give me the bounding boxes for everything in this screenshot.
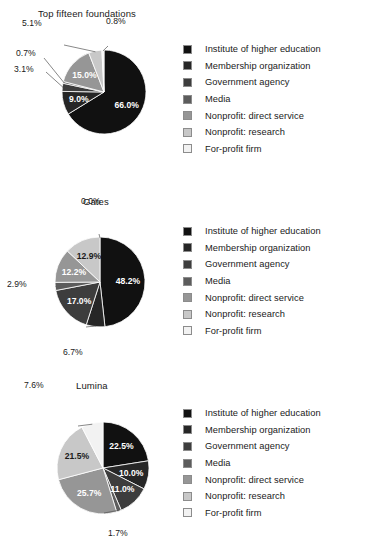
slice-value-label: 15.0%: [72, 70, 97, 80]
legend-item-label: Nonprofit: research: [205, 127, 285, 137]
legend-swatch-icon: [183, 508, 192, 517]
legend-item-label: Government agency: [205, 441, 290, 451]
legend-swatch-icon: [183, 128, 192, 137]
legend-item[interactable]: Nonprofit: research: [183, 124, 368, 141]
slice-value-label: 0.8%: [106, 16, 126, 26]
slice-value-label: 12.9%: [77, 251, 102, 261]
legend-item[interactable]: Membership organization: [183, 422, 368, 439]
slice-value-label: 21.5%: [65, 451, 90, 461]
legend-item[interactable]: Media: [183, 273, 368, 290]
slice-value-label: 2.9%: [7, 279, 27, 289]
legend-item[interactable]: Institute of higher education: [183, 223, 368, 240]
legend-item-label: Government agency: [205, 259, 290, 269]
legend-item[interactable]: Nonprofit: direct service: [183, 107, 368, 124]
legend-item-label: Membership organization: [205, 243, 311, 253]
legend-item[interactable]: Nonprofit: direct service: [183, 289, 368, 306]
pie-svg: 66.0%9.0%3.1%0.7%15.0%5.1%0.8%: [0, 0, 180, 180]
slice-value-label: 1.7%: [108, 528, 128, 538]
legend-swatch-icon: [183, 61, 192, 70]
chart-block-gates: Gates 48.2%6.7%17.0%2.9%12.2%12.9%0.0% I…: [0, 182, 368, 362]
legend-item-label: Membership organization: [205, 425, 311, 435]
legend-item[interactable]: Institute of higher education: [183, 405, 368, 422]
legend-item-label: Nonprofit: direct service: [205, 111, 304, 121]
legend-item-label: Nonprofit: direct service: [205, 475, 304, 485]
legend-item-label: Membership organization: [205, 61, 311, 71]
legend-swatch-icon: [183, 442, 192, 451]
pie-svg: 22.5%10.0%11.0%1.7%25.7%21.5%7.6%: [0, 364, 180, 544]
legend-item-label: Media: [205, 276, 231, 286]
slice-value-label: 11.0%: [111, 484, 135, 494]
legend-swatch-icon: [183, 78, 192, 87]
pie-labels: 48.2%6.7%17.0%2.9%12.2%12.9%0.0%: [7, 196, 140, 357]
legend-item-label: Institute of higher education: [205, 408, 321, 418]
legend-swatch-icon: [183, 95, 192, 104]
legend-item-label: Media: [205, 458, 231, 468]
legend-swatch-icon: [183, 260, 192, 269]
legend-item-label: Institute of higher education: [205, 226, 321, 236]
legend-item[interactable]: Government agency: [183, 74, 368, 91]
pie-svg: 48.2%6.7%17.0%2.9%12.2%12.9%0.0%: [0, 182, 180, 362]
legend-item-label: Nonprofit: research: [205, 309, 285, 319]
legend-swatch-icon: [183, 111, 192, 120]
legend-item-label: Nonprofit: research: [205, 491, 285, 501]
legend: Institute of higher educationMembership …: [183, 223, 368, 339]
pie-chart: 66.0%9.0%3.1%0.7%15.0%5.1%0.8%: [0, 0, 180, 180]
legend-swatch-icon: [183, 45, 192, 54]
legend-item[interactable]: For-profit firm: [183, 141, 368, 158]
legend-item-label: Institute of higher education: [205, 44, 321, 54]
legend-item-label: For-profit firm: [205, 144, 262, 154]
legend-swatch-icon: [183, 310, 192, 319]
legend-swatch-icon: [183, 243, 192, 252]
legend-swatch-icon: [183, 326, 192, 335]
pie-chart: 22.5%10.0%11.0%1.7%25.7%21.5%7.6%: [0, 364, 180, 544]
legend-item[interactable]: Nonprofit: direct service: [183, 471, 368, 488]
legend: Institute of higher educationMembership …: [183, 41, 368, 157]
legend-item[interactable]: Nonprofit: research: [183, 306, 368, 323]
slice-value-label: 6.7%: [63, 347, 83, 357]
slice-value-label: 0.0%: [81, 196, 101, 206]
slice-value-label: 5.1%: [22, 18, 42, 28]
label-leader-line: [46, 72, 63, 87]
legend-swatch-icon: [183, 409, 192, 418]
legend-item[interactable]: Media: [183, 91, 368, 108]
legend-swatch-icon: [183, 227, 192, 236]
legend-item[interactable]: Government agency: [183, 438, 368, 455]
slice-value-label: 25.7%: [77, 488, 102, 498]
legend-swatch-icon: [183, 492, 192, 501]
legend-item-label: For-profit firm: [205, 508, 262, 518]
legend-item-label: For-profit firm: [205, 326, 262, 336]
legend-item[interactable]: Government agency: [183, 256, 368, 273]
legend-item[interactable]: For-profit firm: [183, 323, 368, 340]
slice-value-label: 22.5%: [109, 441, 134, 451]
pie-slices: [62, 50, 146, 134]
legend-item[interactable]: Nonprofit: research: [183, 488, 368, 505]
legend: Institute of higher educationMembership …: [183, 405, 368, 521]
slice-value-label: 17.0%: [67, 296, 92, 306]
legend-swatch-icon: [183, 144, 192, 153]
legend-item-label: Nonprofit: direct service: [205, 293, 304, 303]
slice-value-label: 7.6%: [24, 380, 44, 390]
pie-chart: 48.2%6.7%17.0%2.9%12.2%12.9%0.0%: [0, 182, 180, 362]
label-leader-line: [64, 45, 95, 52]
slice-value-label: 66.0%: [115, 100, 140, 110]
legend-item[interactable]: For-profit firm: [183, 505, 368, 522]
slice-value-label: 9.0%: [69, 94, 89, 104]
legend-swatch-icon: [183, 277, 192, 286]
legend-swatch-icon: [183, 425, 192, 434]
legend-swatch-icon: [183, 293, 192, 302]
slice-value-label: 3.1%: [14, 64, 34, 74]
legend-item[interactable]: Membership organization: [183, 240, 368, 257]
chart-block-lumina: Lumina 22.5%10.0%11.0%1.7%25.7%21.5%7.6%…: [0, 364, 368, 544]
legend-item[interactable]: Institute of higher education: [183, 41, 368, 58]
legend-item-label: Government agency: [205, 77, 290, 87]
slice-value-label: 48.2%: [116, 276, 141, 286]
slice-value-label: 0.7%: [16, 48, 36, 58]
legend-item[interactable]: Membership organization: [183, 58, 368, 75]
legend-item-label: Media: [205, 94, 231, 104]
chart-block-top-fifteen-foundations: Top fifteen foundations 66.0%9.0%3.1%0.7…: [0, 0, 368, 180]
slice-value-label: 12.2%: [62, 267, 87, 277]
legend-item[interactable]: Media: [183, 455, 368, 472]
slice-value-label: 10.0%: [119, 468, 144, 478]
legend-swatch-icon: [183, 475, 192, 484]
legend-swatch-icon: [183, 459, 192, 468]
